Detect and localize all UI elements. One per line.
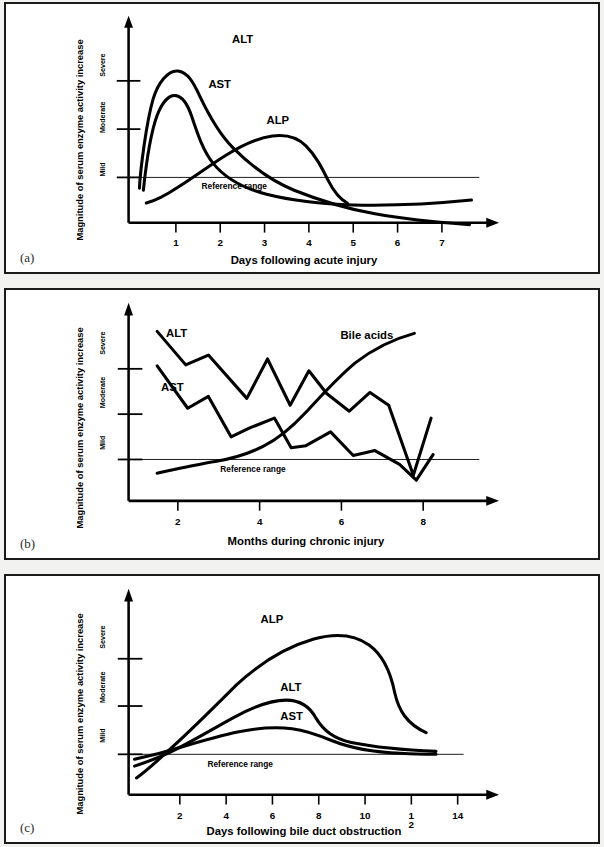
y-zone-mild-a: Mild [99, 162, 107, 176]
y-zone-severe-b: Severe [99, 332, 107, 355]
curve-label-ast-a: AST [208, 78, 231, 90]
panel-label-a: (a) [20, 250, 34, 266]
x-ticks-c [180, 795, 458, 805]
y-axis-arrow-b [124, 303, 133, 316]
y-zone-moderate-c: Moderate [99, 672, 107, 704]
x-tick-label-a-4: 4 [306, 237, 312, 248]
x-tick-label-a-5: 5 [350, 237, 356, 248]
chart-c: Magnitude of serum enzyme activity incre… [6, 576, 598, 842]
curve-ast-a [143, 96, 471, 206]
curve-label-alt-a: ALT [232, 33, 253, 45]
curve-label-alp-a: ALP [267, 114, 290, 126]
x-axis-arrow-a [486, 218, 499, 228]
chart-a: Magnitude of serum enzyme activity incre… [6, 4, 598, 272]
x-tick-label-c-4: 8 [316, 810, 322, 821]
y-zone-severe-c: Severe [99, 625, 107, 648]
y-zone-severe-a: Severe [99, 53, 107, 76]
y-zone-mild-c: Mild [99, 729, 107, 743]
x-tick-label-a-3: 3 [262, 237, 268, 248]
curve-label-ast-c: AST [280, 710, 303, 722]
x-ticks-b [178, 501, 423, 511]
y-axis-arrow-a [124, 16, 133, 28]
panel-b: Magnitude of serum enzyme activity incre… [4, 288, 600, 560]
x-axis-title-b: Months during chronic injury [228, 535, 385, 547]
curve-alp-c [136, 636, 426, 778]
x-axis-title-a: Days following acute injury [231, 254, 378, 266]
x-tick-label-b-4: 8 [420, 516, 426, 527]
y-axis-title-c: Magnitude of serum enzyme activity incre… [75, 613, 85, 814]
x-tick-label-c-7: 14 [452, 810, 463, 821]
figure-container: Magnitude of serum enzyme activity incre… [0, 0, 604, 847]
x-tick-label-a-1: 1 [173, 237, 179, 248]
curve-label-alt-c: ALT [280, 681, 301, 693]
x-tick-label-c-5: 10 [360, 810, 371, 821]
x-tick-label-c-2: 4 [223, 810, 229, 821]
x-ticks-a [176, 223, 442, 233]
curve-alp-a [146, 136, 347, 204]
x-tick-label-a-2: 2 [217, 237, 223, 248]
x-axis-title-c: Days following bile duct obstruction [207, 825, 402, 837]
x-tick-label-c-6-bottom: 2 [409, 819, 415, 830]
x-tick-label-a-6: 6 [395, 237, 401, 248]
y-axis-title-b: Magnitude of serum enzyme activity incre… [75, 327, 85, 528]
x-tick-label-c-3: 6 [270, 810, 276, 821]
x-axis-arrow-b [486, 496, 499, 506]
chart-b: Magnitude of serum enzyme activity incre… [6, 290, 598, 558]
y-zone-moderate-a: Moderate [99, 102, 107, 134]
x-tick-label-b-2: 4 [257, 516, 263, 527]
reference-label-b: Reference range [220, 464, 286, 474]
x-tick-label-c-1: 2 [177, 810, 183, 821]
y-zone-moderate-b: Moderate [99, 377, 107, 409]
x-tick-label-b-3: 6 [339, 516, 345, 527]
panel-label-c: (c) [20, 820, 34, 836]
curve-label-ast-b: AST [161, 381, 184, 393]
curve-label-alt-b: ALT [166, 327, 187, 339]
panel-c: Magnitude of serum enzyme activity incre… [4, 574, 600, 844]
panel-label-b: (b) [20, 536, 35, 552]
x-tick-label-b-1: 2 [175, 516, 181, 527]
x-axis-arrow-c [486, 790, 499, 800]
reference-label-c: Reference range [207, 759, 273, 769]
curve-label-bile-acids-b: Bile acids [340, 329, 393, 341]
y-axis-title-a: Magnitude of serum enzyme activity incre… [75, 39, 85, 240]
curve-label-alp-c: ALP [261, 613, 284, 625]
y-zone-mild-b: Mild [99, 436, 107, 450]
panel-a: Magnitude of serum enzyme activity incre… [4, 2, 600, 274]
x-tick-label-a-7: 7 [439, 237, 445, 248]
y-axis-arrow-c [124, 589, 133, 602]
